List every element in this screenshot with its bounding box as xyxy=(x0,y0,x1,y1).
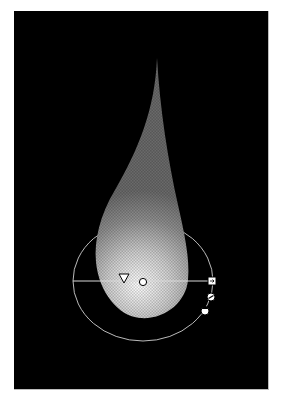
rotate-handle-icon[interactable] xyxy=(207,293,215,301)
square-end-handle-icon[interactable] xyxy=(208,277,216,285)
aspect-ratio-handle-icon[interactable] xyxy=(201,306,209,315)
gradient-editor-stage xyxy=(0,0,283,404)
circle-center-icon[interactable] xyxy=(139,278,146,285)
